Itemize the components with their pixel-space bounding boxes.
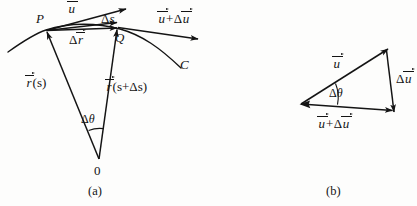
caption-a-text: (a) bbox=[88, 184, 102, 198]
label-r-glyph: r bbox=[77, 33, 83, 46]
label-position-vector-r-s-plus-delta-s: r(s+Δs) bbox=[106, 80, 148, 93]
theta-glyph-a: θ bbox=[89, 112, 95, 126]
origin-glyph: 0 bbox=[94, 163, 101, 178]
label-delta-theta-b: Δθ bbox=[329, 87, 343, 99]
u-glyph-second-b: u bbox=[342, 117, 350, 130]
label-vector-u-b: u bbox=[333, 57, 341, 70]
vector-u-b bbox=[301, 49, 388, 104]
caption-panel-b: (b) bbox=[326, 185, 341, 198]
u-glyph-first-b: u bbox=[318, 117, 326, 130]
u-glyph-second-a: u bbox=[182, 12, 190, 25]
angle-arc-delta-theta-a bbox=[89, 128, 104, 130]
space-curve-c bbox=[8, 24, 181, 68]
theta-glyph-b: θ bbox=[337, 86, 343, 100]
label-vector-delta-u-b: Δu bbox=[396, 72, 412, 85]
delta-symbol-theta-a: Δ bbox=[81, 112, 89, 126]
point-p-glyph: P bbox=[36, 11, 44, 26]
r-s-argument: (s) bbox=[32, 75, 47, 90]
position-vector-r-s bbox=[47, 32, 99, 159]
figure-drawing bbox=[0, 0, 417, 206]
label-point-p: P bbox=[36, 12, 44, 25]
u-glyph-first-a: u bbox=[158, 12, 166, 25]
point-q-glyph: Q bbox=[115, 30, 124, 45]
panel-b-graphics bbox=[300, 49, 395, 112]
vector-u-plus-delta-u-at-q bbox=[118, 28, 198, 40]
label-vector-u-plus-delta-u-b: u+Δu bbox=[318, 117, 350, 130]
label-u-glyph-a: u bbox=[68, 2, 76, 15]
curve-c-glyph: C bbox=[180, 57, 189, 72]
vector-u-plus-delta-u-b bbox=[301, 104, 393, 111]
caption-b-text: (b) bbox=[326, 184, 341, 198]
label-position-vector-r-s: r(s) bbox=[26, 76, 47, 89]
label-vector-u-a: u bbox=[68, 2, 76, 15]
label-vector-delta-r: Δr bbox=[69, 33, 83, 46]
u-glyph-delta-b: u bbox=[404, 72, 412, 85]
label-s-glyph: s bbox=[109, 11, 114, 26]
label-vector-u-plus-delta-u-a: u+Δu bbox=[158, 12, 190, 25]
label-delta-s: Δs bbox=[101, 12, 114, 25]
figure-container: u Δs P Q Δr u+Δu C r(s) r(s+Δs) Δθ 0 (a)… bbox=[0, 0, 417, 206]
caption-panel-a: (a) bbox=[88, 185, 102, 198]
r-glyph-s: r bbox=[26, 76, 32, 89]
label-curve-c: C bbox=[180, 58, 189, 71]
label-u-glyph-b: u bbox=[333, 57, 341, 70]
r-s-plus-argument: (s+Δs) bbox=[112, 79, 147, 94]
label-origin-a: 0 bbox=[94, 164, 101, 177]
position-vector-r-s-plus-delta-s bbox=[99, 30, 117, 160]
label-point-q: Q bbox=[115, 31, 124, 44]
r-glyph-s-plus: r bbox=[106, 80, 112, 93]
vector-delta-u-b bbox=[387, 51, 395, 113]
delta-symbol-theta-b: Δ bbox=[329, 86, 337, 100]
label-delta-theta-a: Δθ bbox=[81, 113, 95, 125]
